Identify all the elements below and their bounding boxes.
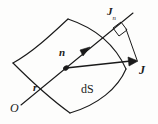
label-normal-component-subscript: n [113,14,116,21]
label-position-vector: r [33,82,37,93]
position-vector-line [21,68,66,105]
label-origin: O [10,102,19,114]
figure-container: Jn J n r O dS [0,0,158,124]
projection-connector [126,29,137,60]
normal-line-extension [66,13,133,68]
vector-J-shaft [66,61,131,68]
label-vector-J: J [139,64,145,76]
label-normal-component: Jn [107,6,116,20]
label-unit-normal: n [59,47,65,58]
normal-line-group [21,13,133,105]
label-normal-component-symbol: J [107,5,113,17]
label-surface-element: dS [81,83,94,95]
surface-flux-diagram [0,0,158,124]
surface-edge-lower-right [70,69,126,113]
